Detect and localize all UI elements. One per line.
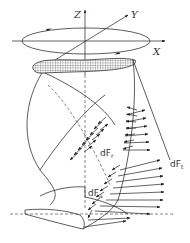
blade-cross-section: [33, 58, 136, 73]
helical-blade-outline: [25, 60, 170, 229]
y-axis-label: Y: [131, 9, 139, 20]
x-axis-label: X: [152, 46, 161, 57]
z-axis-label: Z: [73, 9, 82, 20]
axial-force-label: dFa: [88, 188, 103, 199]
helical-blade-force-diagram: Z Y X: [0, 0, 190, 243]
radial-force-label: dFr: [100, 148, 114, 159]
force-vector-field: [84, 107, 164, 227]
tangential-force-label: dFt: [170, 159, 184, 170]
